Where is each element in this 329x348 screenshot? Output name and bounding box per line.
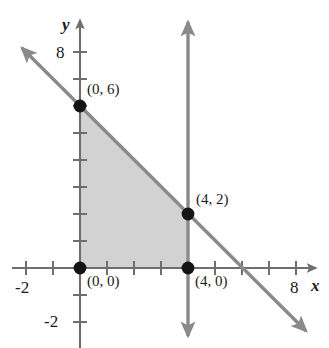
point-label-4-0: (4, 0): [195, 274, 228, 289]
point-label-4-2: (4, 2): [196, 192, 229, 207]
diagonal-line-y-equals-minus-x-plus-6: [22, 48, 306, 331]
point-0-6: [74, 100, 87, 113]
x-axis-label: x: [311, 277, 320, 294]
graph-canvas: [0, 0, 329, 348]
shaded-region: [80, 106, 188, 268]
x-tick-label-8: 8: [290, 279, 299, 296]
point-0-0: [74, 262, 87, 275]
coordinate-plane-figure: y x -2 8 8 -2 (0, 6) (0, 0) (4, 2) (4, 0…: [0, 0, 329, 348]
point-label-0-6: (0, 6): [87, 82, 120, 97]
point-4-2: [182, 208, 195, 221]
point-label-0-0: (0, 0): [87, 274, 120, 289]
point-4-0: [182, 262, 195, 275]
x-tick-label-minus-2: -2: [15, 279, 29, 296]
y-tick-label-minus-2: -2: [44, 313, 58, 330]
y-tick-label-8: 8: [56, 44, 65, 61]
y-axis-label: y: [62, 16, 70, 33]
